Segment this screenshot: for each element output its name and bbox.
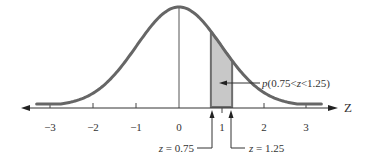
tick-label-neg1: −1: [130, 121, 142, 133]
axis-left-arrow-icon: [21, 105, 30, 111]
tick-label-3: 3: [303, 121, 309, 133]
tick-label-1: 1: [219, 121, 225, 133]
lower-bound-arrow-icon: [210, 110, 215, 118]
lower-bound-label: z = 0.75: [158, 142, 195, 154]
probability-label: p(0.75<z<1.25): [261, 77, 330, 90]
tick-label-0: 0: [176, 121, 182, 133]
axis-label-z: Z: [344, 100, 352, 115]
tick-label-2: 2: [261, 121, 267, 133]
tick-label-neg3: −3: [44, 121, 56, 133]
normal-distribution-chart: −3 −2 −1 0 1 2 3 Z p(0.75<z<1.25) z = 0.…: [0, 0, 368, 160]
upper-bound-pointer-line: [231, 117, 245, 148]
axis-right-arrow-icon: [328, 105, 338, 111]
lower-bound-pointer-line: [197, 117, 212, 148]
shaded-probability-region: [211, 31, 232, 107]
tick-label-neg2: −2: [87, 121, 99, 133]
upper-bound-label: z = 1.25: [248, 142, 285, 154]
upper-bound-arrow-icon: [229, 110, 234, 118]
